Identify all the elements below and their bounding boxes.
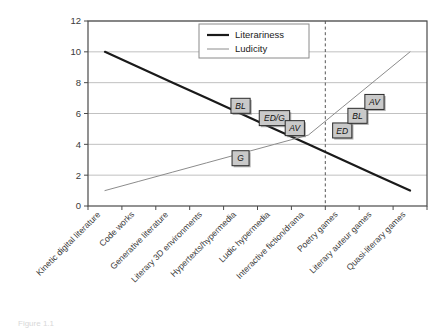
x-axis — [88, 206, 427, 210]
data-label-box: AV — [365, 94, 386, 111]
data-label-text: AV — [368, 97, 381, 107]
y-tick-label: 0 — [76, 200, 81, 211]
y-tick-label: 8 — [76, 77, 81, 88]
line-chart: 024681012 BLED/GAVGEDBLAV Kinetic digita… — [0, 0, 447, 332]
y-tick-label: 4 — [76, 139, 81, 150]
data-label-text: BL — [235, 101, 246, 111]
x-category-label: Quasi-literary games — [344, 209, 407, 272]
data-label-text: ED/G — [264, 113, 285, 123]
figure-caption: Figure 1.1 — [18, 319, 55, 328]
data-label-box: ED — [333, 123, 354, 140]
legend-label[interactable]: Ludicity — [235, 43, 267, 54]
data-label-box: AV — [285, 121, 306, 138]
legend-label[interactable]: Literariness — [235, 29, 284, 40]
y-tick-label: 2 — [76, 170, 81, 181]
x-category-label: Generative literature — [108, 209, 170, 271]
chart-legend[interactable]: LiterarinessLudicity — [199, 24, 309, 58]
y-axis: 024681012 — [70, 15, 88, 211]
category-labels: Kinetic digital literatureCode worksGene… — [34, 209, 407, 284]
data-label-text: G — [237, 153, 244, 163]
y-tick-label: 6 — [76, 108, 81, 119]
data-label-text: BL — [352, 111, 363, 121]
x-category-label: Literary auteur games — [307, 209, 373, 275]
data-label-box: G — [232, 151, 251, 168]
data-label-text: ED — [336, 126, 348, 136]
x-category-label: Kinetic digital literature — [34, 209, 102, 277]
data-label-box: BL — [231, 98, 252, 115]
figure-container: 024681012 BLED/GAVGEDBLAV Kinetic digita… — [0, 0, 447, 332]
y-tick-label: 10 — [70, 46, 81, 57]
y-tick-label: 12 — [70, 15, 81, 26]
data-label-text: AV — [288, 123, 301, 133]
x-category-label: Hypertexts/hypermedia — [168, 209, 238, 279]
data-label-box: BL — [348, 108, 369, 125]
x-category-label: Interactive fiction/drama — [234, 209, 306, 281]
